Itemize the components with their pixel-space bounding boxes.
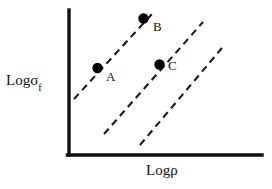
data-point-label-c: C (168, 59, 177, 72)
plot-canvas (0, 0, 272, 189)
trend-line-2 (104, 22, 203, 134)
data-point-c[interactable] (154, 59, 164, 69)
x-axis-label-symbol: ρ (170, 162, 178, 178)
x-axis-label-prefix: Log (146, 162, 170, 178)
y-axis-label-prefix: Log (6, 72, 30, 88)
data-point-label-a: A (106, 70, 115, 83)
y-axis-label: Logσf (6, 73, 42, 91)
x-axis-label: Logρ (146, 163, 178, 178)
figure-container: Logσf Logρ A B C (0, 0, 272, 189)
y-axis-label-subscript: f (38, 82, 41, 93)
data-point-label-b: B (153, 20, 162, 33)
trend-lines-group (74, 14, 222, 145)
trend-line-1 (74, 14, 152, 99)
data-point-a[interactable] (92, 63, 102, 73)
trend-line-3 (140, 48, 222, 145)
data-point-b[interactable] (138, 13, 148, 23)
axes-group (68, 10, 263, 155)
